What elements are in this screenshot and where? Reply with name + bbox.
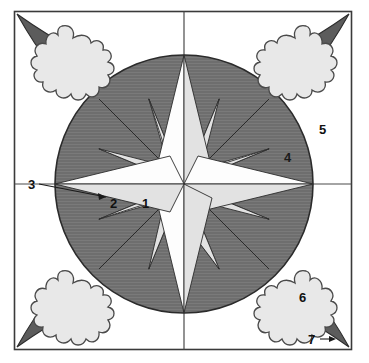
label-7: 7	[308, 333, 315, 346]
label-1: 1	[142, 197, 149, 210]
label-5: 5	[319, 123, 326, 136]
figure-root: 1 2 3 4 5 6 7	[0, 0, 369, 363]
compass-rose-figure	[0, 0, 369, 363]
label-4: 4	[284, 151, 291, 164]
label-2: 2	[110, 197, 117, 210]
label-6: 6	[299, 291, 306, 304]
label-3: 3	[28, 178, 35, 191]
